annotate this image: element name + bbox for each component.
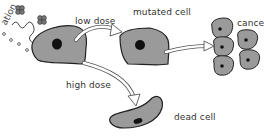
particle-cluster-icon xyxy=(38,16,47,25)
arrow-to-cancer xyxy=(166,41,214,52)
nucleus-icon xyxy=(52,39,62,50)
diagram-graphics xyxy=(0,0,264,139)
nucleus-icon xyxy=(135,40,145,50)
node-label-dead-cell: dead cell xyxy=(174,112,216,122)
edge-label-high-dose: high dose xyxy=(66,80,111,90)
edge-label-low-dose: low dose xyxy=(75,16,115,26)
normal-cell xyxy=(32,26,87,64)
node-label-cancer: cancer xyxy=(237,18,264,28)
radiation-dots-icon xyxy=(3,33,29,52)
mutated-cell xyxy=(120,28,169,65)
node-label-mutated-cell: mutated cell xyxy=(133,7,191,17)
radiation-diagram: ation low dose mutated cell cancer high … xyxy=(0,0,264,139)
